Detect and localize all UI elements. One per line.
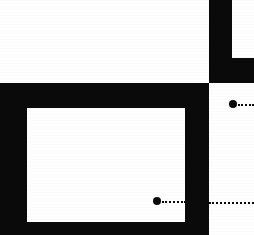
inner-field-callout-dot [153, 197, 161, 205]
shape-top-right-horizontal-extension [232, 58, 254, 83]
right-panel-callout-dot [229, 100, 237, 108]
right-panel-dotted-rule [209, 202, 254, 204]
shape-main-frame-inner-white-field [27, 108, 185, 222]
shape-top-right-vertical-bar [209, 0, 232, 83]
inner-field-callout-leader [162, 201, 186, 203]
figure-canvas [0, 0, 254, 235]
right-panel-callout-leader [238, 104, 254, 106]
